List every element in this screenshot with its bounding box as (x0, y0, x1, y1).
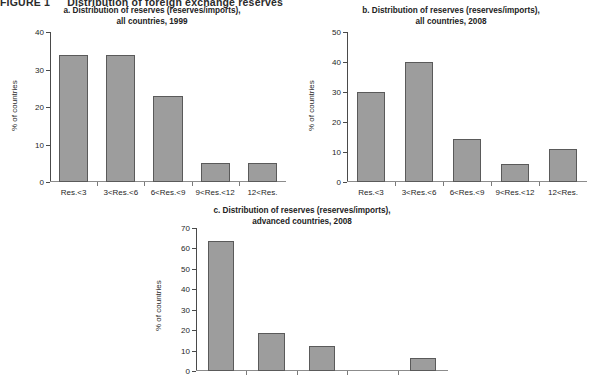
y-tick-label-c-10: 10 (181, 346, 190, 355)
bar-c-4 (410, 358, 436, 371)
chart-b-plot-area: 01020304050Res.<33<Res.<66<Res.<99<Res.<… (347, 32, 587, 182)
y-tick-label-c-70: 70 (181, 224, 190, 233)
bar-c-1 (258, 333, 284, 371)
y-tick-label-c-0: 0 (186, 367, 190, 376)
bar-b-2 (453, 139, 481, 183)
y-tick-b-30 (343, 92, 347, 93)
chart-c-plot-area: 010203040506070 (196, 228, 448, 371)
y-tick-label-b-20: 20 (332, 118, 341, 127)
bar-a-0 (59, 55, 88, 182)
x-tick-b-2 (443, 182, 444, 186)
y-tick-label-a-0: 0 (40, 178, 44, 187)
bar-a-3 (201, 163, 230, 183)
y-tick-label-c-20: 20 (181, 326, 190, 335)
y-tick-a-20 (46, 107, 50, 108)
x-category-label-a-3: 9<Res.<12 (196, 188, 235, 197)
y-tick-label-b-10: 10 (332, 148, 341, 157)
x-tick-a-2 (144, 182, 145, 186)
y-tick-c-40 (192, 289, 196, 290)
y-tick-c-50 (192, 269, 196, 270)
bar-c-2 (309, 346, 335, 371)
x-category-label-a-0: Res.<3 (61, 188, 87, 197)
y-tick-c-10 (192, 351, 196, 352)
y-tick-a-10 (46, 145, 50, 146)
chart-panel-a: a. Distribution of reserves (reserves/im… (8, 6, 296, 198)
chart-panel-b: b. Distribution of reserves (reserves/im… (305, 6, 597, 198)
y-tick-c-0 (192, 371, 196, 372)
chart-c-y-axis-label: % of countries (154, 251, 163, 361)
bar-a-2 (153, 96, 182, 182)
y-tick-c-60 (192, 248, 196, 249)
y-tick-b-50 (343, 32, 347, 33)
chart-a-plot-area: 010203040Res.<33<Res.<66<Res.<99<Res.<12… (50, 32, 286, 182)
y-tick-b-10 (343, 152, 347, 153)
x-tick-c-2 (297, 371, 298, 375)
x-tick-a-4 (239, 182, 240, 186)
x-category-label-a-1: 3<Res.<6 (103, 188, 138, 197)
x-category-label-a-4: 12<Res. (247, 188, 277, 197)
x-tick-c-4 (398, 371, 399, 375)
bar-b-3 (501, 164, 529, 182)
y-axis-line-c (196, 228, 197, 371)
y-tick-label-a-20: 20 (35, 103, 44, 112)
chart-panel-c: c. Distribution of reserves (reserves/im… (152, 206, 452, 379)
y-tick-b-20 (343, 122, 347, 123)
chart-b-title: b. Distribution of reserves (reserves/im… (305, 6, 597, 27)
chart-c-title: c. Distribution of reserves (reserves/im… (152, 206, 452, 227)
y-tick-a-0 (46, 182, 50, 183)
bar-c-0 (208, 241, 234, 371)
y-tick-label-c-40: 40 (181, 285, 190, 294)
x-category-label-a-2: 6<Res.<9 (151, 188, 186, 197)
y-axis-line-b (347, 32, 348, 182)
y-tick-label-b-30: 30 (332, 88, 341, 97)
x-tick-a-3 (192, 182, 193, 186)
chart-a-y-axis-label: % of countries (10, 46, 19, 166)
y-tick-c-20 (192, 330, 196, 331)
bar-a-4 (248, 163, 277, 183)
x-category-label-b-0: Res.<3 (358, 188, 384, 197)
x-tick-c-3 (347, 371, 348, 375)
y-tick-b-0 (343, 182, 347, 183)
y-tick-label-a-30: 30 (35, 65, 44, 74)
x-category-label-b-1: 3<Res.<6 (402, 188, 437, 197)
y-tick-label-a-40: 40 (35, 28, 44, 37)
x-tick-c-1 (246, 371, 247, 375)
y-tick-label-c-60: 60 (181, 244, 190, 253)
y-tick-label-c-30: 30 (181, 305, 190, 314)
y-tick-label-b-50: 50 (332, 28, 341, 37)
y-tick-a-30 (46, 70, 50, 71)
chart-a-title: a. Distribution of reserves (reserves/im… (8, 6, 296, 27)
y-tick-c-30 (192, 310, 196, 311)
bar-b-0 (357, 92, 385, 182)
bar-b-1 (405, 62, 433, 182)
x-tick-a-1 (97, 182, 98, 186)
x-tick-b-3 (491, 182, 492, 186)
y-tick-label-b-0: 0 (337, 178, 341, 187)
y-tick-label-a-10: 10 (35, 140, 44, 149)
x-tick-b-1 (395, 182, 396, 186)
y-tick-b-40 (343, 62, 347, 63)
x-tick-b-4 (539, 182, 540, 186)
x-category-label-b-2: 6<Res.<9 (450, 188, 485, 197)
y-axis-line-a (50, 32, 51, 182)
x-category-label-b-3: 9<Res.<12 (495, 188, 534, 197)
y-tick-label-c-50: 50 (181, 264, 190, 273)
bar-b-4 (549, 149, 577, 182)
chart-b-y-axis-label: % of countries (307, 46, 316, 166)
bar-a-1 (106, 55, 135, 182)
y-tick-label-b-40: 40 (332, 58, 341, 67)
y-tick-c-70 (192, 228, 196, 229)
y-tick-a-40 (46, 32, 50, 33)
x-category-label-b-4: 12<Res. (548, 188, 578, 197)
